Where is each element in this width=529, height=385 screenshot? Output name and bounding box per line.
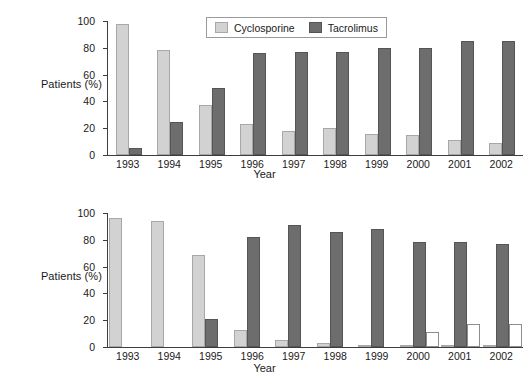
x-tick-label-1997: 1997 <box>273 350 315 362</box>
bar-cyclosporine-1996 <box>240 124 253 155</box>
chart-panel-cyclosporine-tacrolimus: Patients (%) 100806040200 19931994199519… <box>0 0 529 192</box>
bar-group-1998 <box>316 213 358 347</box>
bar-cyclosporine-2001 <box>448 140 461 155</box>
bar-sirolimus-2001 <box>467 324 480 347</box>
bar-mycophenolate-mofetil-2001 <box>454 242 467 347</box>
bar-group-1994 <box>150 213 192 347</box>
y-tick-0: 0 <box>103 347 108 348</box>
bar-group-2000 <box>399 21 441 155</box>
bar-group-1995 <box>191 213 233 347</box>
bar-azathioprine-1996 <box>234 330 247 347</box>
bar-group-2000 <box>399 213 441 347</box>
y-tick-label-100: 100 <box>77 207 95 219</box>
x-tick-label-2002: 2002 <box>481 350 523 362</box>
bar-cyclosporine-2000 <box>406 135 419 155</box>
bar-cyclosporine-1997 <box>282 131 295 155</box>
x-tick-label-1994: 1994 <box>149 350 191 362</box>
y-tick-label-80: 80 <box>83 234 95 246</box>
bar-azathioprine-1994 <box>151 221 164 347</box>
x-tick-label-2001: 2001 <box>439 350 481 362</box>
bar-mycophenolate-mofetil-2000 <box>413 242 426 347</box>
legend-swatch-icon <box>309 22 322 33</box>
chart-panel-azathioprine-mmf-sirolimus: Patients (%) 100806040200 19931994199519… <box>0 192 529 384</box>
y-tick-label-40: 40 <box>83 95 95 107</box>
bar-tacrolimus-1996 <box>253 53 266 155</box>
x-tick-label-1996: 1996 <box>232 350 274 362</box>
bar-group-2002 <box>482 213 524 347</box>
bar-azathioprine-1995 <box>192 255 205 347</box>
bar-cyclosporine-1993 <box>116 24 129 155</box>
bar-tacrolimus-1997 <box>295 52 308 155</box>
y-tick-label-60: 60 <box>83 69 95 81</box>
bar-sirolimus-2000 <box>426 332 439 347</box>
y-tick-label-0: 0 <box>89 341 95 353</box>
bar-tacrolimus-1995 <box>212 88 225 155</box>
x-axis-label-a: Year <box>0 168 529 180</box>
x-tick-label-1998: 1998 <box>315 350 357 362</box>
y-tick-0: 0 <box>103 155 108 156</box>
bar-group-1998 <box>316 21 358 155</box>
bar-group-2001 <box>440 213 482 347</box>
legend-label: Tacrolimus <box>328 22 378 34</box>
bar-cyclosporine-1999 <box>365 134 378 155</box>
bar-cyclosporine-1998 <box>323 128 336 155</box>
bar-azathioprine-1997 <box>275 340 288 347</box>
bar-azathioprine-1998 <box>317 343 330 347</box>
bar-group-1993 <box>108 213 150 347</box>
bar-cyclosporine-1995 <box>199 105 212 155</box>
bar-group-1995 <box>191 21 233 155</box>
bar-group-1996 <box>233 21 275 155</box>
bar-azathioprine-1999 <box>358 345 371 347</box>
y-tick-label-20: 20 <box>83 314 95 326</box>
bar-groups-b <box>108 213 523 347</box>
legend-a: CyclosporineTacrolimus <box>206 17 387 38</box>
y-tick-label-20: 20 <box>83 122 95 134</box>
plot-area-b: 100806040200 <box>107 213 523 348</box>
y-tick-label-40: 40 <box>83 287 95 299</box>
bar-tacrolimus-2001 <box>461 41 474 155</box>
plot-area-a: 100806040200 <box>107 21 523 156</box>
bar-mycophenolate-mofetil-1998 <box>330 232 343 347</box>
bar-mycophenolate-mofetil-2002 <box>496 244 509 347</box>
bar-mycophenolate-mofetil-1997 <box>288 225 301 347</box>
x-tick-label-1993: 1993 <box>107 350 149 362</box>
bar-azathioprine-2002 <box>483 345 496 347</box>
x-axis-ticks-b: 1993199419951996199719981999200020012002 <box>107 350 522 362</box>
legend-item-tacrolimus: Tacrolimus <box>309 22 378 34</box>
bar-group-1994 <box>150 21 192 155</box>
bar-mycophenolate-mofetil-1996 <box>247 237 260 347</box>
bar-tacrolimus-1993 <box>129 148 142 155</box>
legend-item-cyclosporine: Cyclosporine <box>215 22 295 34</box>
bar-group-1996 <box>233 213 275 347</box>
bar-tacrolimus-2000 <box>419 48 432 155</box>
bar-azathioprine-2001 <box>441 345 454 347</box>
bar-group-1997 <box>274 213 316 347</box>
bar-group-1997 <box>274 21 316 155</box>
bar-azathioprine-1993 <box>109 218 122 347</box>
bar-tacrolimus-1999 <box>378 48 391 155</box>
bar-groups-a <box>108 21 523 155</box>
x-tick-label-1995: 1995 <box>190 350 232 362</box>
bar-group-1999 <box>357 213 399 347</box>
bar-tacrolimus-2002 <box>502 41 515 155</box>
bar-mycophenolate-mofetil-1999 <box>371 229 384 347</box>
y-tick-label-60: 60 <box>83 261 95 273</box>
legend-label: Cyclosporine <box>234 22 295 34</box>
bar-azathioprine-2000 <box>400 345 413 347</box>
bar-group-2002 <box>482 21 524 155</box>
bar-cyclosporine-2002 <box>489 143 502 155</box>
y-tick-label-100: 100 <box>77 15 95 27</box>
x-tick-label-2000: 2000 <box>398 350 440 362</box>
bar-cyclosporine-1994 <box>157 50 170 155</box>
x-axis-label-b: Year <box>0 362 529 374</box>
bar-group-1993 <box>108 21 150 155</box>
figure-container: Patients (%) 100806040200 19931994199519… <box>0 0 529 385</box>
bar-tacrolimus-1994 <box>170 122 183 156</box>
bar-group-2001 <box>440 21 482 155</box>
y-tick-label-0: 0 <box>89 149 95 161</box>
y-tick-label-80: 80 <box>83 42 95 54</box>
x-tick-label-1999: 1999 <box>356 350 398 362</box>
bar-sirolimus-2002 <box>509 324 522 347</box>
bar-mycophenolate-mofetil-1995 <box>205 319 218 347</box>
legend-swatch-icon <box>215 22 228 33</box>
